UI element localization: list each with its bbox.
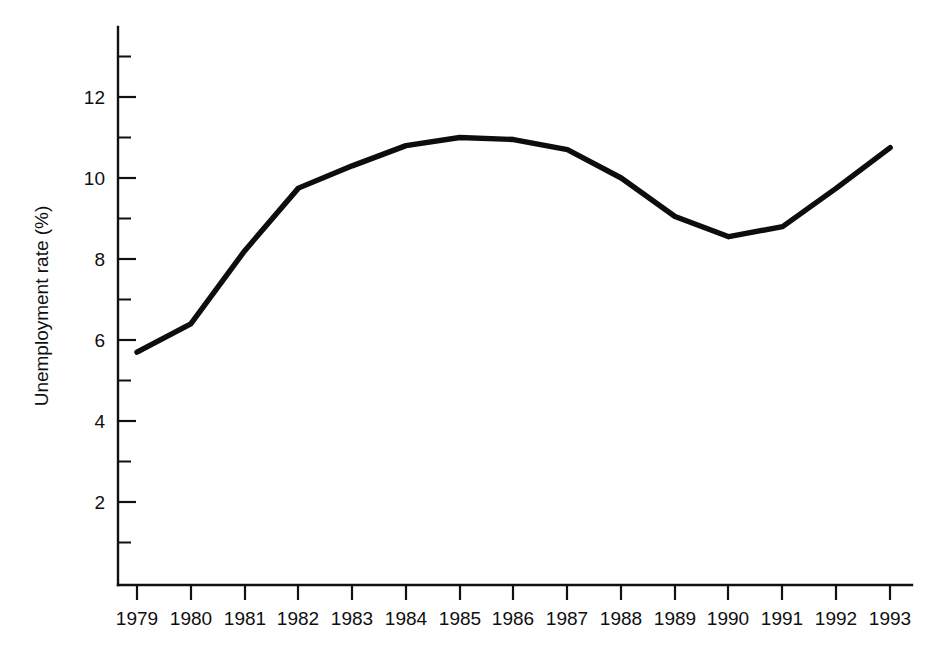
x-tick-label-1985: 1985: [439, 608, 481, 629]
x-axis-tick-labels: 1979 1980 1981 1982 1983 1984 1985 1986 …: [116, 608, 911, 629]
x-tick-label-1980: 1980: [170, 608, 212, 629]
chart-figure: 12 10 8 6 4 2 Unemployment rate (%): [0, 0, 939, 657]
x-tick-label-1990: 1990: [707, 608, 749, 629]
y-tick-label-2: 2: [94, 492, 105, 513]
y-tick-label-8: 8: [94, 249, 105, 270]
y-axis-tick-labels: 12 10 8 6 4 2: [84, 87, 106, 513]
x-tick-label-1991: 1991: [761, 608, 803, 629]
x-tick-label-1987: 1987: [546, 608, 588, 629]
x-tick-label-1993: 1993: [869, 608, 911, 629]
x-tick-label-1986: 1986: [492, 608, 534, 629]
axes-group: [118, 27, 912, 585]
x-tick-label-1989: 1989: [654, 608, 696, 629]
line-chart: 12 10 8 6 4 2 Unemployment rate (%): [0, 0, 939, 657]
y-axis-ticks: [118, 57, 136, 543]
y-tick-label-6: 6: [94, 330, 105, 351]
y-tick-label-4: 4: [94, 411, 105, 432]
x-tick-label-1981: 1981: [224, 608, 266, 629]
x-tick-label-1992: 1992: [815, 608, 857, 629]
y-tick-label-12: 12: [84, 87, 105, 108]
x-tick-label-1979: 1979: [116, 608, 158, 629]
y-tick-label-10: 10: [84, 168, 105, 189]
x-tick-label-1988: 1988: [600, 608, 642, 629]
x-axis-ticks: [137, 585, 890, 600]
x-tick-label-1982: 1982: [277, 608, 319, 629]
x-tick-label-1983: 1983: [331, 608, 373, 629]
x-tick-label-1984: 1984: [385, 608, 428, 629]
y-axis-title: Unemployment rate (%): [31, 206, 52, 407]
data-series-unemployment-rate: [137, 138, 890, 353]
